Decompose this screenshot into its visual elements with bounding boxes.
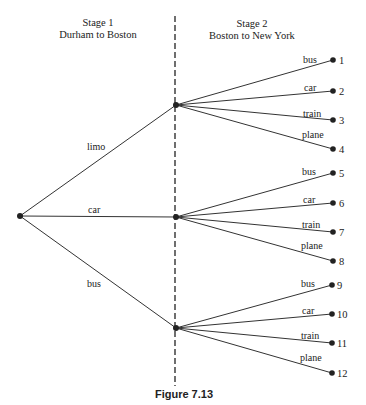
leaf-number: 7: [339, 227, 344, 238]
leaf-node: [330, 88, 336, 94]
leaf-label: plane: [300, 352, 322, 363]
edge-label-car: car: [88, 204, 101, 215]
branch-car: bus car train plane 5 6 7 8: [176, 166, 344, 267]
leaf-number: 5: [339, 168, 344, 179]
leaf-number: 1: [339, 55, 344, 66]
leaf-label: plane: [302, 129, 324, 140]
leaf-label: bus: [302, 166, 316, 177]
leaf-number: 6: [339, 198, 344, 209]
edge-label-bus: bus: [87, 278, 101, 289]
stage1-node-limo: [173, 102, 179, 108]
leaf-number: 12: [337, 368, 348, 379]
edge-label-limo: limo: [87, 141, 105, 152]
leaf-number: 8: [339, 256, 344, 267]
branch-bus: bus car train plane 9 10 11 12: [176, 278, 348, 379]
leaf-node: [329, 370, 335, 376]
leaf-label: plane: [301, 240, 323, 251]
stage1-subtitle: Durham to Boston: [59, 29, 137, 40]
leaf-node: [330, 229, 336, 235]
leaf-label: train: [303, 108, 321, 119]
leaf-label: car: [302, 305, 315, 316]
leaf-number: 9: [337, 280, 342, 291]
stage1-title: Stage 1: [82, 17, 113, 28]
root-node: [17, 213, 23, 219]
leaf-label: train: [302, 219, 320, 230]
leaf-number: 3: [339, 115, 344, 126]
leaf-node: [329, 311, 335, 317]
stage2-subtitle: Boston to New York: [209, 30, 296, 41]
edge-bus: [20, 216, 176, 328]
leaf-number: 10: [337, 309, 348, 320]
leaf-number: 11: [337, 338, 347, 349]
leaf-label: bus: [301, 278, 315, 289]
leaf-label: bus: [303, 54, 317, 65]
stage1-node-bus: [173, 325, 179, 331]
leaf-node: [330, 146, 336, 152]
leaf-node: [330, 170, 336, 176]
stage2-title: Stage 2: [236, 18, 267, 29]
edge-limo: [20, 105, 176, 216]
leaf-node: [330, 57, 336, 63]
leaf-node: [329, 282, 335, 288]
figure-caption: Figure 7.13: [155, 388, 213, 400]
leaf-label: car: [304, 82, 317, 93]
edge-car: [20, 216, 176, 217]
stage1-node-car: [173, 214, 179, 220]
leaf-label: car: [303, 194, 316, 205]
leaf-number: 2: [339, 86, 344, 97]
leaf-node: [330, 117, 336, 123]
leaf-node: [329, 340, 335, 346]
stage1-edges: limo car bus: [20, 105, 176, 328]
leaf-node: [330, 258, 336, 264]
tree-diagram: Stage 1 Durham to Boston Stage 2 Boston …: [0, 0, 366, 405]
leaf-number: 4: [339, 144, 345, 155]
leaf-node: [330, 200, 336, 206]
branch-limo: bus car train plane 1 2 3 4: [176, 54, 345, 155]
leaf-label: train: [301, 330, 319, 341]
